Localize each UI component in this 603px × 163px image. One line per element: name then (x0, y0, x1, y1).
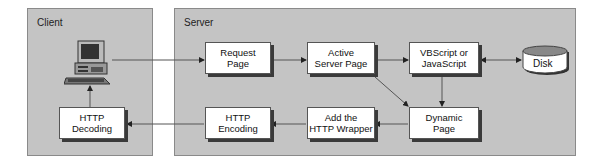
disk-label: Disk (533, 58, 552, 69)
request-page-node: Request Page (205, 42, 271, 74)
add-http-wrapper-node: Add the HTTP Wrapper (307, 107, 375, 139)
http-decoding-node: HTTP Decoding (59, 107, 125, 139)
http-encoding-node: HTTP Encoding (205, 107, 271, 139)
vbscript-node: VBScript or JavaScript (409, 42, 479, 74)
computer-icon (64, 40, 116, 86)
active-server-page-node: Active Server Page (307, 42, 375, 74)
dynamic-page-node: Dynamic Page (409, 107, 479, 139)
